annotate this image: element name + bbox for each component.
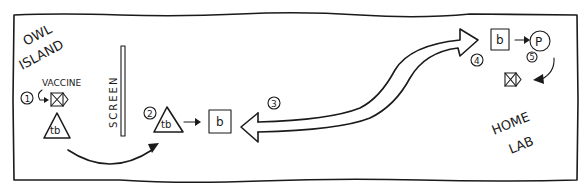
big-transfer-arrow <box>241 29 478 142</box>
vaccine-box-icon <box>51 93 68 106</box>
step-5: P 5 <box>505 31 554 86</box>
owl-island-label: OWL ISLAND <box>16 21 66 73</box>
svg-text:SCREEN: SCREEN <box>108 76 119 128</box>
svg-text:5: 5 <box>530 53 535 62</box>
svg-text:b: b <box>496 33 504 47</box>
screen-bar <box>121 46 125 136</box>
step-1: 1 VACCINE <box>21 78 82 106</box>
frame-border <box>13 13 578 183</box>
svg-text:1: 1 <box>25 94 31 104</box>
tb-triangle-left: tb <box>44 113 70 138</box>
svg-text:tb: tb <box>50 125 60 136</box>
svg-text:b: b <box>216 115 224 129</box>
svg-text:LAB: LAB <box>507 133 536 156</box>
svg-text:VACCINE: VACCINE <box>42 78 82 88</box>
step-4: 4 b <box>471 29 530 66</box>
step-2: 2 tb b <box>144 107 231 133</box>
step-3: 3 <box>268 97 280 109</box>
curved-arrow-p-to-vaccine <box>542 58 554 79</box>
svg-text:HOME: HOME <box>490 109 532 138</box>
svg-text:tb: tb <box>161 119 171 130</box>
arrowhead-icon <box>44 97 49 103</box>
svg-text:2: 2 <box>147 109 153 119</box>
arrowhead-icon <box>195 118 201 126</box>
curved-arrow-1-to-2 <box>68 150 152 164</box>
screen: SCREEN <box>108 46 125 136</box>
svg-text:P: P <box>535 35 542 49</box>
arrowhead-icon <box>524 36 530 44</box>
vaccine-box-icon <box>505 73 521 86</box>
svg-text:4: 4 <box>474 56 480 66</box>
diagram-canvas: OWL ISLAND 1 VACCINE tb SCREEN 2 tb <box>0 0 588 190</box>
home-lab-label: HOME LAB <box>490 109 536 157</box>
arrowhead-icon <box>533 74 544 84</box>
svg-text:3: 3 <box>271 99 277 109</box>
